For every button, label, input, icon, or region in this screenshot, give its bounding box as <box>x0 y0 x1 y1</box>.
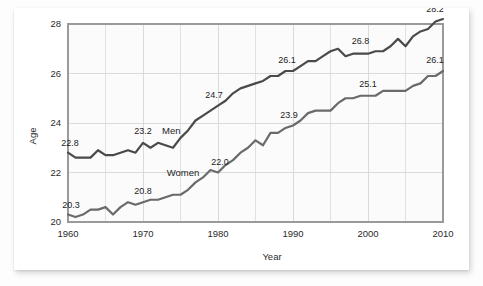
y-tick-label: 28 <box>50 18 61 29</box>
y-tick-label: 26 <box>50 68 61 79</box>
line-chart: 2022242628 196019701980199020002010 22.8… <box>14 8 469 270</box>
data-point-label: 22.0 <box>211 157 229 167</box>
data-point-label: 28.2 <box>426 8 444 14</box>
series-label-men: Men <box>162 125 180 136</box>
series-label-women: Women <box>167 167 200 178</box>
x-tick-label: 1980 <box>207 228 228 239</box>
x-tick-label: 1990 <box>282 228 303 239</box>
data-point-label: 22.8 <box>61 138 79 148</box>
y-tick-label: 20 <box>50 216 61 227</box>
chart-svg: 2022242628 196019701980199020002010 22.8… <box>14 8 469 270</box>
y-tick-label: 24 <box>50 117 61 128</box>
data-point-label: 23.2 <box>134 126 152 136</box>
x-tick-label: 2000 <box>357 228 378 239</box>
figure-card: 2022242628 196019701980199020002010 22.8… <box>14 8 469 270</box>
data-point-label: 26.8 <box>352 36 370 46</box>
x-axis-tick-labels: 196019701980199020002010 <box>57 228 453 239</box>
y-tick-label: 22 <box>50 167 61 178</box>
data-point-label: 25.1 <box>359 79 377 89</box>
y-axis-title: Age <box>27 128 38 145</box>
x-tick-label: 1970 <box>132 228 153 239</box>
data-point-label: 23.9 <box>280 110 298 120</box>
x-tick-label: 1960 <box>57 228 78 239</box>
x-tick-label: 2010 <box>432 228 453 239</box>
page-root: 2022242628 196019701980199020002010 22.8… <box>0 0 483 286</box>
data-point-label: 26.1 <box>426 55 444 65</box>
data-point-label: 20.3 <box>62 200 80 210</box>
data-point-label: 20.8 <box>134 186 152 196</box>
data-point-label: 26.1 <box>278 55 296 65</box>
data-point-label: 24.7 <box>205 90 223 100</box>
y-axis-tick-labels: 2022242628 <box>50 18 61 227</box>
x-axis-title: Year <box>262 251 281 262</box>
